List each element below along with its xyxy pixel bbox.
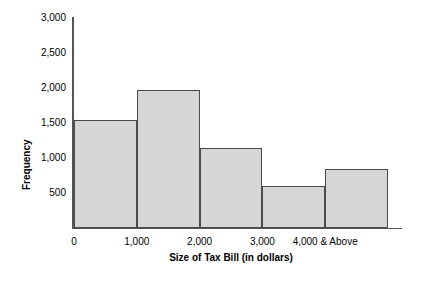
x-tick-label: 3,000	[250, 236, 275, 248]
x-axis-tick-labels: 01,0002,0003,0004,000 & Above	[0, 236, 431, 250]
bar-series	[74, 18, 388, 228]
y-tick-label: 500	[8, 188, 66, 198]
x-tick-label: 2,000	[187, 236, 212, 248]
bar	[137, 90, 200, 228]
y-tick-label: 2,500	[8, 48, 66, 58]
bar	[325, 169, 388, 229]
x-tick-label: 1,000	[124, 236, 149, 248]
bar	[262, 186, 325, 228]
bar	[74, 120, 137, 229]
x-axis-title: Size of Tax Bill (in dollars)	[74, 252, 388, 264]
x-axis-line	[72, 228, 402, 229]
y-tick-label: 1,000	[8, 153, 66, 163]
y-tick-label: 1,500	[8, 118, 66, 128]
bar	[200, 148, 263, 229]
x-tick-label: 0	[71, 236, 77, 248]
y-tick-label: 2,000	[8, 83, 66, 93]
x-tick-label: 4,000 & Above	[293, 236, 358, 248]
histogram-chart: Frequency 3,0002,5002,0001,5001,000500 0…	[0, 0, 431, 282]
y-tick-label: 3,000	[8, 13, 66, 23]
